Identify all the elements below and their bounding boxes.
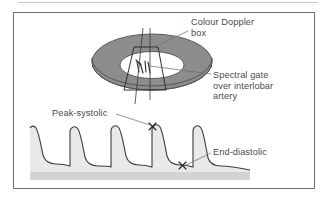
- figure-page: Colour Doppler box Spectral gate over in…: [0, 0, 329, 201]
- label-end-diastolic: End-diastolic: [213, 147, 267, 158]
- label-peak-systolic: Peak-systolic: [52, 108, 107, 119]
- ultrasound-diagram-svg: [0, 0, 329, 201]
- label-colour-doppler-box: Colour Doppler box: [191, 17, 254, 38]
- leader-line-peak-systolic: [116, 114, 150, 125]
- waveform-baseline-band: [30, 172, 250, 180]
- kidney-torus-group: [92, 34, 212, 90]
- label-spectral-gate: Spectral gate over interlobar artery: [213, 70, 273, 102]
